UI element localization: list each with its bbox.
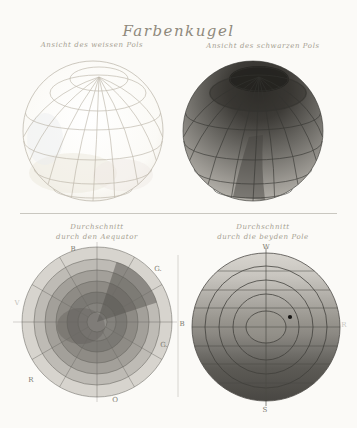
caption-polar-section: Durchschnitt durch die beyden Pole	[200, 223, 326, 241]
divider-line	[20, 213, 337, 214]
caption-polar-line2: durch die beyden Pole	[200, 233, 326, 241]
caption-black-pole: Ansicht des schwarzen Pols	[200, 42, 326, 50]
caption-white-pole: Ansicht des weissen Pols	[30, 41, 154, 49]
polar-section-circle: W S B R	[174, 241, 357, 413]
equator-section-circle: B G. G. O R V	[9, 238, 185, 406]
caption-polar-line1: Durchschnitt	[236, 223, 290, 231]
pale-pink-tint	[93, 159, 153, 191]
label-black-pole: S	[263, 406, 268, 413]
plate: Farbenkugel Ansicht des weissen Pols Ans…	[0, 0, 357, 428]
label-orange: O	[112, 396, 118, 404]
black-pole-sphere	[175, 51, 331, 211]
label-red: R	[28, 376, 34, 384]
label-green-lower: G.	[160, 341, 168, 349]
caption-equator-line1: Durchschnitt	[70, 223, 124, 231]
label-red-side: R	[341, 321, 347, 329]
label-blue: B	[70, 245, 75, 253]
dark-center-blob	[57, 308, 105, 344]
page-title: Farbenkugel	[0, 22, 357, 40]
label-violet: V	[13, 299, 20, 307]
white-pole-sphere	[15, 51, 171, 211]
label-green-upper: G.	[154, 265, 162, 273]
label-blue-side: B	[179, 320, 184, 328]
ink-spot	[288, 315, 292, 319]
label-white-pole: W	[262, 243, 270, 251]
